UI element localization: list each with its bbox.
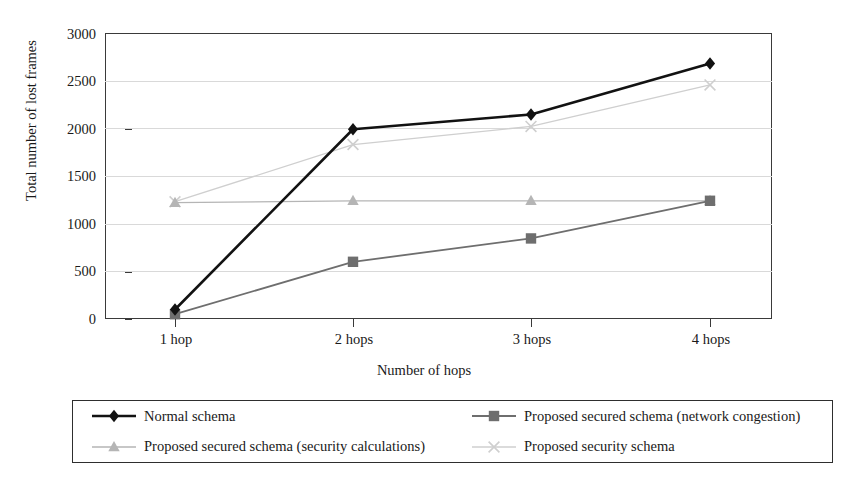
x-tick-label-3hops: 3 hops: [513, 331, 551, 348]
legend-label: Proposed secured schema (security calcul…: [144, 438, 425, 455]
x-tick-label-2hops: 2 hops: [335, 331, 373, 348]
legend-entry-security-calculations[interactable]: Proposed secured schema (security calcul…: [73, 438, 453, 456]
x-tick-mark-3hops: [531, 319, 532, 327]
legend-label: Normal schema: [144, 408, 235, 425]
series-marker: [705, 196, 715, 206]
series-marker: [347, 195, 358, 205]
series-marker: [705, 57, 715, 69]
legend-entry-normal-schema[interactable]: Normal schema: [73, 407, 453, 425]
series-marker: [526, 108, 536, 120]
series-marker: [525, 195, 536, 205]
x-tick-label-1hop: 1 hop: [160, 331, 193, 348]
legend-label: Proposed secured schema (network congest…: [524, 408, 800, 425]
legend: Normal schema Proposed secured schema (n…: [72, 400, 833, 463]
series-plot: [105, 33, 772, 319]
series-marker: [705, 80, 716, 91]
x-axis-title: Number of hops: [0, 362, 848, 379]
y-tick-label-500: 500: [74, 264, 96, 279]
series-line: [175, 201, 710, 314]
y-tick-label-0: 0: [89, 312, 96, 327]
legend-entry-proposed-security-schema[interactable]: Proposed security schema: [453, 438, 834, 456]
series-marker: [348, 257, 358, 267]
y-tick-label-2000: 2000: [67, 122, 96, 137]
legend-label: Proposed security schema: [524, 438, 675, 455]
y-tick-label-1500: 1500: [67, 169, 96, 184]
x-tick-mark-2hops: [353, 319, 354, 327]
series-line: [175, 64, 710, 310]
line-chart-figure: 3000 2500 2000 1500 1000 500 0 Total num…: [0, 0, 848, 483]
x-tick-mark-1hop: [175, 319, 176, 327]
y-axis-title: Total number of lost frames: [23, 0, 40, 246]
legend-swatch-cross-icon: [471, 438, 517, 456]
legend-entry-network-congestion[interactable]: Proposed secured schema (network congest…: [453, 407, 834, 425]
y-tick-label-2500: 2500: [67, 74, 96, 89]
series-line: [175, 85, 710, 202]
plot-area: [105, 33, 772, 319]
series-marker: [526, 233, 536, 243]
x-tick-mark-4hops: [710, 319, 711, 327]
legend-swatch-triangle-icon: [91, 438, 137, 456]
y-tick-label-1000: 1000: [67, 217, 96, 232]
y-tick-mark-0: [125, 319, 132, 320]
x-tick-label-4hops: 4 hops: [692, 331, 730, 348]
y-tick-label-3000: 3000: [67, 27, 96, 42]
legend-swatch-square-icon: [471, 407, 517, 425]
legend-swatch-diamond-icon: [91, 407, 137, 425]
series-line: [175, 201, 710, 203]
